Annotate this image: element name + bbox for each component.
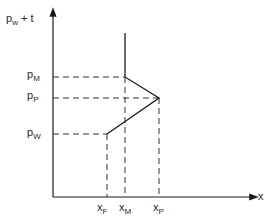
diagram-canvas: pw + t pM pP pW xF xM xP x	[0, 0, 265, 220]
x-tick-xf: xF	[97, 201, 108, 216]
y-tick-pp: pP	[27, 89, 38, 104]
y-axis-label: pw + t	[6, 12, 34, 27]
x-axis-label: x	[258, 190, 264, 202]
curve-line	[107, 33, 159, 134]
y-tick-pm: pM	[27, 68, 40, 83]
y-tick-pw: pW	[27, 126, 41, 141]
x-tick-xm: xM	[119, 201, 132, 216]
x-tick-xp: xP	[153, 201, 164, 216]
axes	[53, 12, 254, 197]
guide-lines	[53, 77, 159, 197]
